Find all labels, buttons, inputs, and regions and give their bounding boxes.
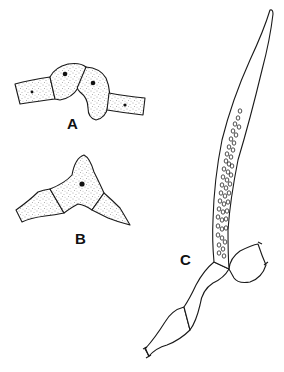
panel-label-b: B (75, 231, 86, 246)
nucleus-icon (123, 103, 126, 106)
panel-b-drawing (16, 155, 130, 225)
panel-label-a: A (67, 116, 78, 131)
cell-a-left (15, 77, 55, 104)
nucleus-icon (91, 81, 96, 86)
filament-c-middle (184, 262, 229, 330)
nucleus-icon (31, 91, 34, 94)
cell-a-swollen-2 (77, 67, 109, 120)
nucleus-icon (79, 181, 84, 186)
nucleus-icon (63, 72, 68, 77)
filament-c-branch (229, 244, 266, 283)
spore-tube (213, 10, 273, 269)
panel-a-drawing (15, 63, 145, 120)
panel-label-c: C (180, 252, 191, 267)
filament-c-lower (145, 307, 190, 356)
illustration (0, 0, 284, 372)
panel-c-drawing (143, 10, 273, 358)
